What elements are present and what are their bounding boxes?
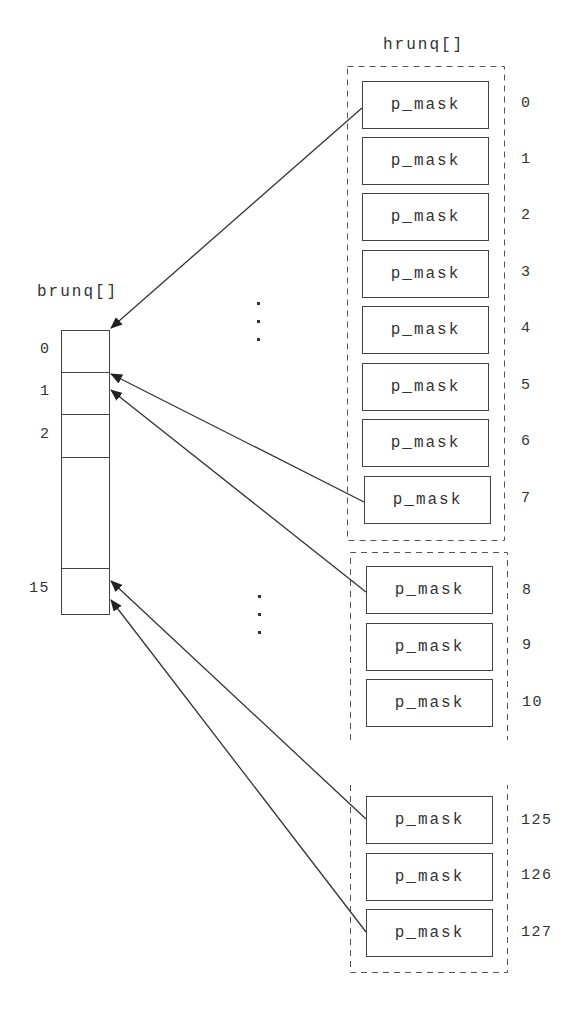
diagram-lines — [0, 0, 588, 1016]
hrunq-entry-10: p_mask — [366, 679, 493, 727]
arrow-hrunq125-to-brunq15 — [111, 581, 366, 819]
hrunq-entry-4: p_mask — [362, 306, 489, 354]
hrunq-entry-6: p_mask — [362, 419, 489, 467]
hrunq-index-10: 10 — [522, 694, 543, 711]
arrow-hrunq0-to-brunq0 — [111, 108, 362, 328]
hrunq-index-125: 125 — [521, 812, 553, 829]
hrunq-index-3: 3 — [521, 264, 532, 281]
arrow-hrunq8-to-brunq1 — [111, 390, 366, 592]
hrunq-index-126: 126 — [521, 867, 553, 884]
hrunq-index-127: 127 — [521, 924, 553, 941]
hrunq-index-9: 9 — [522, 637, 533, 654]
hrunq-entry-2: p_mask — [362, 193, 489, 241]
hrunq-entry-5: p_mask — [362, 363, 489, 411]
hrunq-index-1: 1 — [521, 151, 532, 168]
hrunq-entry-7: p_mask — [364, 476, 491, 524]
arrow-hrunq7-to-brunq1 — [111, 374, 364, 502]
hrunq-index-6: 6 — [521, 433, 532, 450]
hrunq-entry-0: p_mask — [362, 81, 489, 129]
hrunq-index-5: 5 — [521, 377, 532, 394]
hrunq-index-4: 4 — [521, 320, 532, 337]
hrunq-entry-126: p_mask — [366, 853, 493, 901]
hrunq-index-0: 0 — [521, 95, 532, 112]
hrunq-entry-3: p_mask — [362, 250, 489, 298]
hrunq-entry-8: p_mask — [366, 566, 493, 614]
hrunq-entry-1: p_mask — [362, 137, 489, 185]
hrunq-index-7: 7 — [521, 490, 532, 507]
hrunq-entry-125: p_mask — [366, 796, 493, 844]
hrunq-entry-127: p_mask — [366, 909, 493, 957]
hrunq-entry-9: p_mask — [366, 623, 493, 671]
hrunq-index-2: 2 — [521, 207, 532, 224]
hrunq-index-8: 8 — [522, 582, 533, 599]
arrow-hrunq127-to-brunq15 — [111, 600, 366, 932]
